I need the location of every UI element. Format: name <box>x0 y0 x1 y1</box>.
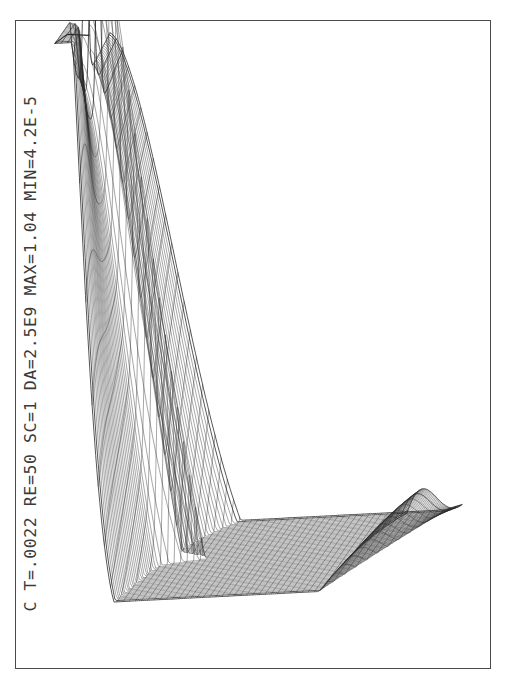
mesh-line-u <box>105 42 457 528</box>
mesh-line-u <box>69 23 421 581</box>
mesh-line-u <box>103 47 455 532</box>
surface-mesh-plot <box>15 20 491 669</box>
mesh-line-u <box>98 56 450 539</box>
mesh-line-u <box>100 53 452 536</box>
mesh-line-u <box>95 62 447 544</box>
mesh-line-u <box>73 52 425 576</box>
mesh-line-u <box>106 40 458 526</box>
mesh-line-u <box>109 35 461 522</box>
mesh-line-u <box>94 63 446 544</box>
mesh-line-u <box>101 51 453 535</box>
mesh-line-u <box>63 31 415 590</box>
faint-scan-marks <box>185 670 355 680</box>
mesh-line-u <box>108 37 460 524</box>
mesh-line-u <box>91 61 443 549</box>
mesh-line-u <box>107 38 459 524</box>
mesh-line-u <box>104 44 456 529</box>
mesh-line-u <box>70 22 422 580</box>
mesh-line-u <box>89 20 441 553</box>
wireframe-mesh <box>55 20 462 602</box>
mesh-line-u <box>79 78 431 567</box>
mesh-line-u <box>83 20 435 559</box>
mesh-line-u <box>66 27 418 586</box>
mesh-line-u <box>71 33 423 579</box>
figure-root: C T=.0022 RE=50 SC=1 DA=2.5E9 MAX=1.04 M… <box>0 0 508 682</box>
mesh-line-u <box>76 70 428 572</box>
mesh-line-u <box>65 28 417 587</box>
mesh-line-u <box>76 74 428 571</box>
